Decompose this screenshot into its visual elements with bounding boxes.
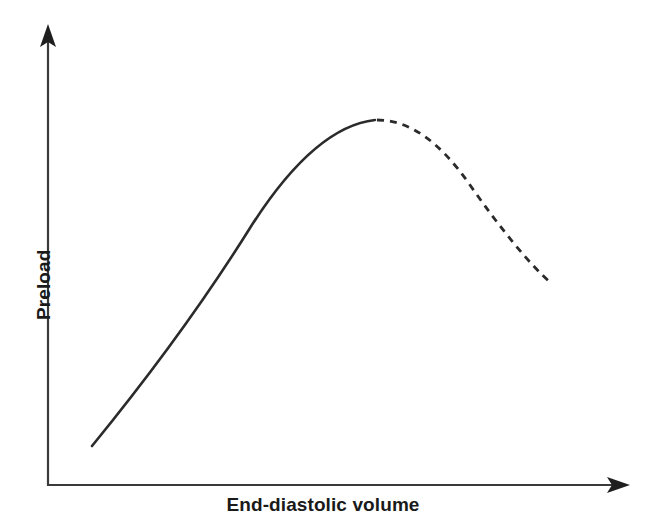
x-axis-label: End-diastolic volume xyxy=(0,494,646,516)
curve-dashed-descending xyxy=(377,120,552,284)
chart-figure: Preload End-diastolic volume xyxy=(0,0,646,523)
y-axis-label: Preload xyxy=(33,250,55,320)
curve-solid-ascending xyxy=(92,120,375,446)
chart-plot-area xyxy=(0,0,646,523)
